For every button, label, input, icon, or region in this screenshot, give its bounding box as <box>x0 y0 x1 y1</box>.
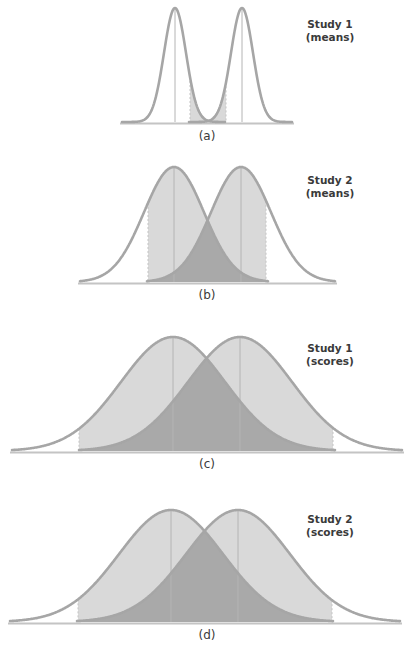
right-distribution-curve <box>189 8 292 122</box>
study-label-d: Study 2 (scores) <box>295 513 365 539</box>
distribution-figure <box>0 0 415 653</box>
study-label-a: Study 1 (means) <box>295 18 365 44</box>
study-name: Study 2 <box>295 513 365 526</box>
study-kind: (scores) <box>295 526 365 539</box>
study-name: Study 1 <box>295 342 365 355</box>
left-distribution-curve <box>122 8 225 122</box>
study-kind: (scores) <box>295 355 365 368</box>
study-kind: (means) <box>295 187 365 200</box>
study-kind: (means) <box>295 31 365 44</box>
study-label-b: Study 2 (means) <box>295 174 365 200</box>
study-name: Study 1 <box>295 18 365 31</box>
panel-label-d: (d) <box>192 628 222 642</box>
panel-label-c: (c) <box>192 457 222 471</box>
panel-label-b: (b) <box>192 288 222 302</box>
study-name: Study 2 <box>295 174 365 187</box>
panel-label-a: (a) <box>192 129 222 143</box>
panel-a <box>120 8 294 124</box>
study-label-c: Study 1 (scores) <box>295 342 365 368</box>
